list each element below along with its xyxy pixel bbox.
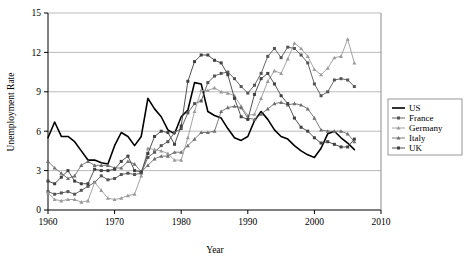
- data-point-marker: [120, 160, 123, 163]
- y-axis-title: Unemployment Rate: [6, 73, 16, 152]
- data-point-marker: [326, 90, 329, 93]
- data-point-marker: [66, 190, 69, 193]
- data-point-marker: [286, 46, 289, 49]
- data-point-marker: [340, 77, 343, 80]
- data-point-marker: [326, 140, 329, 143]
- data-point-marker: [73, 193, 76, 196]
- data-point-marker: [233, 77, 236, 80]
- data-point-marker: [233, 97, 236, 100]
- data-point-marker: [266, 72, 269, 75]
- x-axis-title: Year: [206, 245, 224, 255]
- data-point-marker: [333, 143, 336, 146]
- data-point-marker: [213, 59, 216, 62]
- data-point-marker: [193, 102, 196, 105]
- data-point-marker: [246, 92, 249, 95]
- y-tick-label: 12: [32, 48, 42, 58]
- legend-label: UK: [409, 143, 422, 153]
- x-tick-label: 2010: [372, 217, 391, 227]
- data-point-marker: [246, 118, 249, 121]
- data-point-marker: [60, 191, 63, 194]
- data-point-marker: [100, 169, 103, 172]
- data-point-marker: [260, 72, 263, 75]
- legend-label: France: [409, 113, 434, 123]
- data-point-marker: [280, 56, 283, 59]
- data-point-marker: [306, 130, 309, 133]
- data-point-marker: [106, 169, 109, 172]
- x-tick-label: 2000: [305, 217, 324, 227]
- data-point-marker: [133, 169, 136, 172]
- data-point-marker: [253, 93, 256, 96]
- y-tick-label: 9: [36, 87, 41, 97]
- data-point-marker: [353, 85, 356, 88]
- data-point-marker: [133, 173, 136, 176]
- data-point-marker: [397, 147, 400, 150]
- data-point-marker: [186, 111, 189, 114]
- data-point-marker: [280, 94, 283, 97]
- data-point-marker: [146, 152, 149, 155]
- data-point-marker: [166, 140, 169, 143]
- data-point-marker: [153, 135, 156, 138]
- data-point-marker: [313, 136, 316, 139]
- data-point-marker: [353, 138, 356, 141]
- data-point-marker: [113, 177, 116, 180]
- y-tick-label: 6: [36, 127, 41, 137]
- data-point-marker: [126, 172, 129, 175]
- legend-label: Germany: [409, 123, 443, 133]
- data-point-marker: [113, 168, 116, 171]
- data-point-marker: [47, 180, 50, 183]
- data-point-marker: [346, 78, 349, 81]
- data-point-marker: [293, 117, 296, 120]
- data-point-marker: [300, 54, 303, 57]
- data-point-marker: [240, 115, 243, 118]
- chart-canvas: 03691215 196019701980199020002010 Unempl…: [0, 0, 466, 273]
- data-point-marker: [253, 84, 256, 87]
- data-point-marker: [206, 81, 209, 84]
- data-point-marker: [186, 80, 189, 83]
- data-point-marker: [160, 130, 163, 133]
- data-point-marker: [397, 117, 400, 120]
- data-point-marker: [313, 82, 316, 85]
- data-point-marker: [140, 170, 143, 173]
- data-point-marker: [333, 78, 336, 81]
- data-point-marker: [173, 143, 176, 146]
- data-point-marker: [100, 174, 103, 177]
- data-point-marker: [173, 131, 176, 134]
- data-point-marker: [93, 168, 96, 171]
- data-point-marker: [266, 55, 269, 58]
- data-point-marker: [300, 126, 303, 129]
- data-point-marker: [126, 155, 129, 158]
- data-point-marker: [240, 85, 243, 88]
- data-point-marker: [346, 145, 349, 148]
- data-point-marker: [80, 189, 83, 192]
- data-point-marker: [193, 60, 196, 63]
- data-point-marker: [80, 182, 83, 185]
- data-point-marker: [86, 185, 89, 188]
- data-point-marker: [53, 182, 56, 185]
- data-point-marker: [340, 145, 343, 148]
- x-tick-label: 1990: [238, 217, 257, 227]
- data-point-marker: [286, 102, 289, 105]
- y-tick-label: 15: [32, 8, 42, 18]
- y-tick-label: 0: [36, 205, 41, 215]
- data-point-marker: [213, 75, 216, 78]
- y-tick-label: 3: [36, 166, 41, 176]
- data-point-marker: [320, 142, 323, 145]
- data-point-marker: [220, 61, 223, 64]
- x-tick-label: 1960: [39, 217, 58, 227]
- x-tick-label: 1970: [105, 217, 124, 227]
- data-point-marker: [106, 178, 109, 181]
- data-point-marker: [273, 82, 276, 85]
- data-point-marker: [86, 182, 89, 185]
- data-point-marker: [166, 131, 169, 134]
- legend-label: Italy: [409, 133, 426, 143]
- data-point-marker: [293, 47, 296, 50]
- data-point-marker: [306, 61, 309, 64]
- data-point-marker: [320, 94, 323, 97]
- data-point-marker: [200, 99, 203, 102]
- data-point-marker: [206, 54, 209, 57]
- data-point-marker: [200, 54, 203, 57]
- x-tick-label: 1980: [172, 217, 191, 227]
- data-point-marker: [273, 47, 276, 50]
- data-point-marker: [160, 144, 163, 147]
- unemployment-rate-line-chart: 03691215 196019701980199020002010 Unempl…: [0, 0, 466, 273]
